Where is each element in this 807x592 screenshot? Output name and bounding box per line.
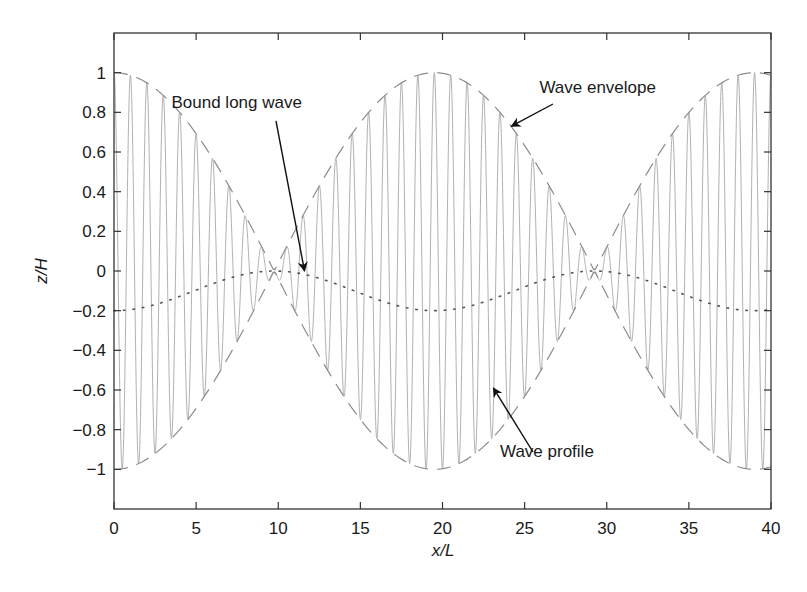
x-tick-label: 10 [269,519,288,538]
x-axis-label: x/L [431,541,455,560]
y-tick-label: −0.8 [72,421,106,440]
y-tick-label: 0 [97,262,106,281]
wave-profile-annotation: Wave profile [500,442,594,461]
series-layer [114,73,771,470]
wave-envelope-lower-line [114,273,771,470]
x-tick-label: 35 [679,519,698,538]
bound-long-wave-arrow [276,121,305,271]
x-tick-label: 20 [433,519,452,538]
y-tick-label: 0.6 [82,143,106,162]
y-tick-label: 0.4 [82,183,106,202]
chart-figure: 0510152025303540 10.80.60.40.20−0.2−0.4−… [0,0,807,592]
x-tick-label: 30 [597,519,616,538]
x-tick-label: 5 [191,519,200,538]
y-tick-label: −0.6 [72,381,106,400]
wave-envelope-annotation: Wave envelope [539,78,656,97]
y-tick-label: 1 [97,64,106,83]
y-axis-label: z/H [32,258,51,285]
y-tick-label: −0.2 [72,302,106,321]
chart-canvas: 0510152025303540 10.80.60.40.20−0.2−0.4−… [0,0,807,592]
y-tick-label: 0.8 [82,103,106,122]
x-tick-label: 15 [351,519,370,538]
wave-envelope-arrow [511,104,553,126]
x-tick-label: 25 [515,519,534,538]
y-tick-label: −1 [87,460,106,479]
bound-long-wave-annotation: Bound long wave [171,93,301,112]
bound-long-wave-line [114,271,771,311]
y-tick-label: 0.2 [82,222,106,241]
x-tick-label: 40 [762,519,781,538]
y-tick-label: −0.4 [72,341,106,360]
x-tick-label: 0 [109,519,118,538]
